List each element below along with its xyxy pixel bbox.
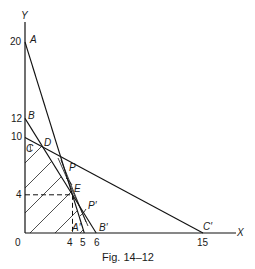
y-tick-10: 10 — [11, 131, 23, 142]
point-label-B-prime: B′ — [99, 222, 109, 233]
figure-caption: Fig. 14–12 — [102, 251, 154, 263]
point-label-A: A — [29, 34, 37, 45]
y-tick-20: 20 — [10, 36, 22, 47]
x-tick-4: 4 — [67, 237, 73, 248]
y-tick-12: 12 — [11, 113, 23, 124]
point-label-C: C — [26, 143, 34, 154]
point-label-C-prime: C′ — [203, 221, 213, 232]
line-BB-prime — [25, 118, 96, 233]
point-label-B: B — [28, 110, 35, 121]
origin-label: 0 — [15, 237, 21, 248]
point-label-P-prime: P′ — [88, 200, 98, 211]
point-label-P: P — [69, 162, 76, 173]
x-axis-label: X — [236, 227, 244, 238]
x-tick-5: 5 — [80, 237, 86, 248]
x-tick-15: 15 — [197, 237, 209, 248]
line-CC-prime — [25, 138, 203, 234]
y-tick-4: 4 — [16, 189, 22, 200]
y-axis-label: Y — [21, 10, 29, 21]
point-label-A-prime: A′ — [71, 222, 82, 233]
linear-programming-diagram: Y X 0 20 12 10 4 4 5 6 15 A B C D E P P′… — [0, 0, 255, 269]
feasible-region-hatching — [25, 18, 185, 248]
x-tick-6: 6 — [94, 237, 100, 248]
point-label-D: D — [44, 137, 51, 148]
point-label-E: E — [74, 183, 81, 194]
